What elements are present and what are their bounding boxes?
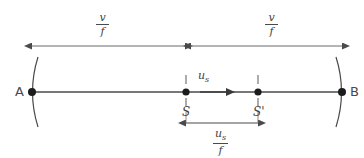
fraction-denominator: f bbox=[98, 25, 106, 37]
fraction-numerator-subscript: s bbox=[222, 133, 226, 142]
measure-right-wavelength-fraction: v f bbox=[265, 12, 278, 37]
fraction-denominator: f bbox=[267, 25, 275, 37]
measure-source-displacement-fraction: us f bbox=[213, 128, 228, 156]
point-label-s: S bbox=[182, 106, 190, 118]
fraction-denominator: f bbox=[217, 144, 225, 156]
source-displacement-arrow bbox=[186, 112, 258, 123]
point-s-dot bbox=[182, 88, 189, 95]
velocity-label-us: us bbox=[198, 70, 209, 84]
physics-diagram: A B S S' us v f v f us f bbox=[0, 0, 364, 158]
point-b-dot bbox=[338, 88, 346, 96]
endpoint-label-b: B bbox=[350, 85, 359, 98]
point-a-dot bbox=[28, 88, 36, 96]
diagram-canvas bbox=[0, 0, 364, 158]
fraction-numerator: us bbox=[213, 128, 228, 143]
point-label-s-prime: S' bbox=[253, 106, 265, 118]
velocity-subscript: s bbox=[205, 75, 209, 84]
fraction-numerator: v bbox=[97, 12, 107, 24]
endpoint-label-a: A bbox=[15, 85, 24, 98]
point-s-prime-dot bbox=[254, 88, 261, 95]
measure-left-wavelength-fraction: v f bbox=[96, 12, 109, 37]
fraction-numerator: v bbox=[266, 12, 276, 24]
